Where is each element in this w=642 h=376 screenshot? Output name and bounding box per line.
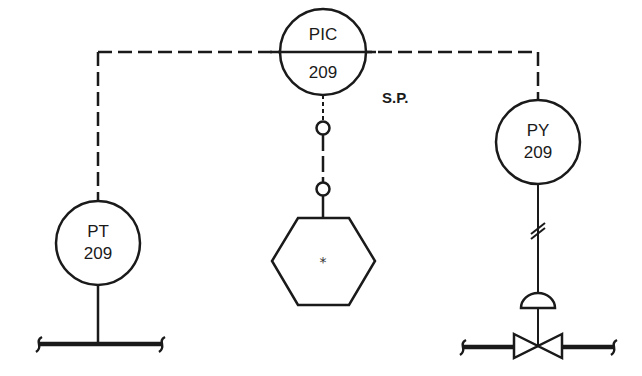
pic-number-label: 209 [309,63,337,82]
pneumatic-signal-line [531,184,545,298]
py-instrument-bubble[interactable]: PY 209 [496,100,580,184]
hexagon-asterisk: * [320,254,327,270]
process-pipe-left [36,337,165,352]
py-number-label: 209 [524,143,552,162]
pid-diagram: PIC 209 S.P. * PT 209 PY 209 [0,0,642,376]
diaphragm-actuator-icon [521,293,555,346]
link-node-icon [317,122,330,135]
py-tag-label: PY [527,121,550,140]
setpoint-label: S.P. [382,89,408,106]
pt-instrument-bubble[interactable]: PT 209 [56,201,140,285]
computer-function-hexagon[interactable]: * [272,218,375,305]
pt-tag-label: PT [87,222,109,241]
pic-tag-label: PIC [309,25,337,44]
software-link-line [317,95,330,218]
pic-instrument-bubble[interactable]: PIC 209 [270,9,376,95]
link-node-icon [317,183,330,196]
pt-number-label: 209 [84,244,112,263]
